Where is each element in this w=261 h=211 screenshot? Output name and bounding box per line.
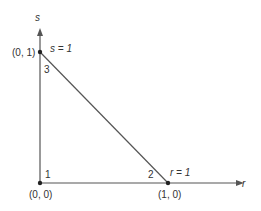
r-axis-label: r [242, 179, 245, 189]
vertex-3-dot [38, 50, 42, 54]
s-axis-arrow-icon [37, 28, 43, 36]
vertex-1-number: 1 [45, 170, 51, 180]
vertex-1-dot [38, 181, 42, 185]
s-axis-label: s [35, 13, 40, 23]
s-equals-1-label: s = 1 [50, 44, 72, 54]
r-equals-1-label: r = 1 [170, 168, 190, 178]
vertex-1-coord: (0, 0) [29, 190, 52, 200]
vertex-3-number: 3 [44, 65, 50, 75]
vertex-2-coord: (1, 0) [158, 190, 181, 200]
vertex-3-coord: (0, 1) [12, 48, 35, 58]
vertex-2-number: 2 [148, 170, 154, 180]
triangle-diagram [0, 0, 261, 211]
vertex-2-dot [166, 181, 170, 185]
hypotenuse [40, 52, 168, 183]
